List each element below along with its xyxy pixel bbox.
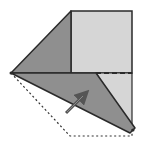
origami-diagram xyxy=(0,0,149,146)
tip-point xyxy=(132,129,135,132)
square-back-face xyxy=(71,11,132,73)
corner-point xyxy=(10,72,13,75)
left-flap xyxy=(11,11,71,73)
